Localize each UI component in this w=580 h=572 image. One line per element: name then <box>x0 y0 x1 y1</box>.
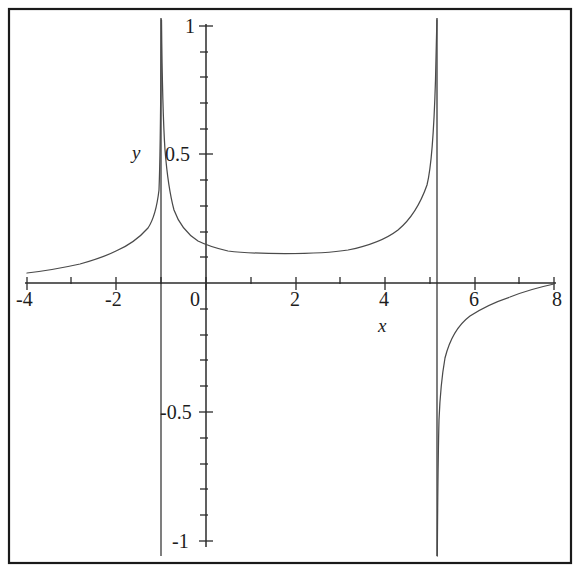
x-tick-label-2: 2 <box>290 288 300 310</box>
y-tick-label--0_5: -0.5 <box>160 401 192 423</box>
x-tick-label-6: 6 <box>469 288 479 310</box>
y-tick-label--1: -1 <box>172 530 189 552</box>
curve-middle-branch <box>162 20 437 254</box>
y-tick-label-1: 1 <box>185 15 195 37</box>
plot-canvas: -4 -2 0 2 4 6 8 1 0.5 -0.5 -1 y x <box>0 0 580 572</box>
x-tick-label-0: 0 <box>190 288 200 310</box>
curve-right-branch <box>437 284 554 556</box>
y-tick-label-0_5: 0.5 <box>165 143 190 165</box>
x-tick-label-4: 4 <box>379 288 389 310</box>
x-tick-label--2: -2 <box>105 288 122 310</box>
figure-border <box>9 9 571 563</box>
x-tick-label-8: 8 <box>552 288 562 310</box>
plot-figure: -4 -2 0 2 4 6 8 1 0.5 -0.5 -1 y x <box>0 0 580 572</box>
y-axis-label: y <box>130 142 141 163</box>
x-axis-label: x <box>377 315 387 336</box>
x-tick-label--4: -4 <box>16 288 33 310</box>
curve-left-branch <box>27 20 161 273</box>
